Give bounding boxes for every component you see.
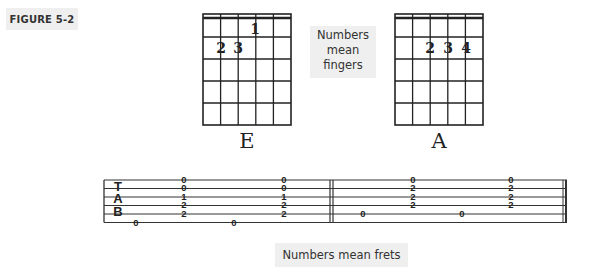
- tab-note: 2: [281, 208, 286, 219]
- tab-note: 0: [459, 208, 464, 219]
- finger-number: 3: [443, 40, 453, 56]
- tab-note: 2: [181, 208, 186, 219]
- tab-note: 0: [360, 208, 365, 219]
- chord-name-e: E: [239, 129, 254, 153]
- tab-note: 0: [231, 217, 236, 228]
- tab-note: 2: [508, 199, 513, 210]
- chord-diagram-e: [203, 14, 291, 125]
- finger-number: 2: [425, 40, 435, 56]
- tab-letter-b: B: [113, 204, 122, 219]
- finger-number: 3: [233, 40, 243, 56]
- tab-note: 2: [410, 199, 415, 210]
- tab-note: 0: [133, 217, 138, 228]
- finger-number: 2: [216, 40, 226, 56]
- music-diagram: 1 2 3 E 2 3 4 A T A B 0 0 0 1 2 2 0: [0, 0, 589, 271]
- chord-diagram-a: [395, 14, 483, 125]
- finger-number: 4: [461, 40, 471, 56]
- finger-number: 1: [250, 21, 260, 37]
- chord-name-a: A: [430, 129, 447, 153]
- tab-staff: [104, 180, 567, 223]
